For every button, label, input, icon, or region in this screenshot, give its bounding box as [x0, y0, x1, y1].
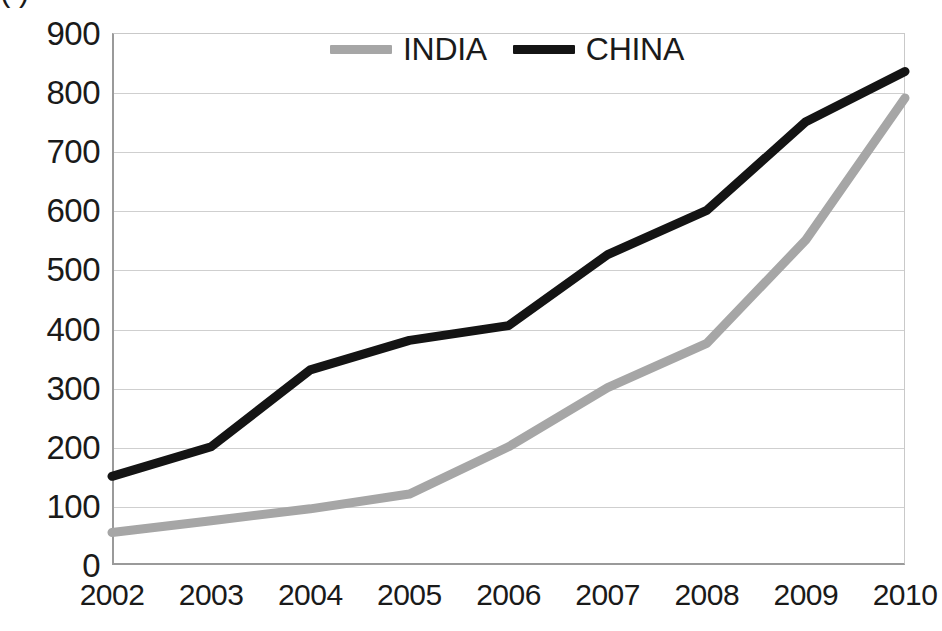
legend-item-china[interactable]: CHINA: [513, 31, 684, 67]
y-axis-tick-label: 300: [0, 371, 100, 404]
x-axis-tick-label: 2005: [354, 575, 464, 615]
x-axis-tick-label: 2010: [850, 575, 942, 615]
y-axis: 9008007006005004003002001000: [0, 33, 100, 565]
y-axis-tick-label: 500: [0, 253, 100, 286]
x-axis-tick-label: 2009: [751, 575, 861, 615]
chart-legend: INDIACHINA: [330, 28, 684, 70]
legend-label: INDIA: [403, 31, 487, 67]
x-axis-tick-label: 2008: [652, 575, 762, 615]
series-layer: [112, 33, 905, 565]
x-axis-tick-label: 2002: [57, 575, 167, 615]
x-axis-tick-label: 2007: [553, 575, 663, 615]
y-axis-tick-label: 800: [0, 76, 100, 109]
y-axis-tick-label: 200: [0, 430, 100, 463]
line-swatch-icon: [330, 45, 392, 54]
legend-label: CHINA: [586, 31, 684, 67]
line-swatch-icon: [513, 45, 575, 54]
y-axis-tick-label: 900: [0, 17, 100, 50]
x-axis: 200220032004200520062007200820092010: [112, 575, 905, 619]
chart-title: ( ): [0, 0, 420, 8]
x-axis-tick-label: 2003: [156, 575, 266, 615]
y-axis-tick-label: 600: [0, 194, 100, 227]
series-line-china: [112, 71, 905, 476]
legend-item-india[interactable]: INDIA: [330, 31, 487, 67]
series-line-india: [112, 98, 905, 532]
y-axis-tick-label: 400: [0, 312, 100, 345]
y-axis-tick-label: 100: [0, 489, 100, 522]
x-axis-tick-label: 2004: [255, 575, 365, 615]
y-axis-tick-label: 700: [0, 135, 100, 168]
x-axis-tick-label: 2006: [454, 575, 564, 615]
